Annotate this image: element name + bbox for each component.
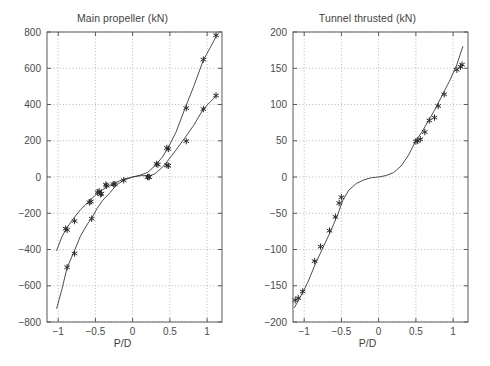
y-tick-label: −150 <box>264 280 287 291</box>
data-point-marker <box>72 218 78 224</box>
x-tick-label: 0 <box>130 326 136 337</box>
y-tick-label: 800 <box>24 27 41 38</box>
plot-area-main-propeller: −1−0.500.51−800−600−400−2000200400600800 <box>0 0 245 366</box>
chart-panel-main-propeller: Main propeller (kN) −1−0.500.51−800−600−… <box>0 0 245 366</box>
y-tick-label: −200 <box>18 208 41 219</box>
chart-panel-tunnel-thrusted: Tunnel thrusted (kN) −1−0.500.51−200−150… <box>245 0 490 366</box>
y-tick-label: 100 <box>270 99 287 110</box>
x-tick-label: 1 <box>450 326 456 337</box>
y-tick-label: −800 <box>18 317 41 328</box>
x-tick-label: 0.5 <box>163 326 177 337</box>
x-tick-label: −0.5 <box>332 326 352 337</box>
y-tick-label: −50 <box>270 208 287 219</box>
x-tick-label: −0.5 <box>86 326 106 337</box>
figure-canvas: Main propeller (kN) −1−0.500.51−800−600−… <box>0 0 490 366</box>
x-tick-label: −1 <box>298 326 310 337</box>
x-axis-label-tunnel-thrusted: P/D <box>245 337 490 349</box>
data-point-marker <box>64 264 70 270</box>
y-tick-label: 150 <box>270 63 287 74</box>
y-tick-label: 200 <box>24 135 41 146</box>
y-tick-label: −100 <box>264 244 287 255</box>
y-tick-label: −400 <box>18 244 41 255</box>
x-tick-label: 1 <box>204 326 210 337</box>
y-tick-label: 0 <box>35 172 41 183</box>
series-line-lower-branch-fit <box>57 95 217 308</box>
y-tick-label: 50 <box>276 135 288 146</box>
data-point-marker <box>213 32 219 38</box>
x-tick-label: 0 <box>376 326 382 337</box>
y-tick-label: 600 <box>24 63 41 74</box>
x-tick-label: 0.5 <box>409 326 423 337</box>
y-tick-label: −200 <box>264 317 287 328</box>
y-tick-label: 400 <box>24 99 41 110</box>
x-axis-label-main-propeller: P/D <box>0 337 245 349</box>
y-tick-label: 0 <box>281 172 287 183</box>
data-point-marker <box>432 114 438 120</box>
series-line-upper-branch-fit <box>57 35 217 250</box>
y-tick-label: −600 <box>18 280 41 291</box>
y-tick-label: 200 <box>270 27 287 38</box>
x-tick-label: −1 <box>52 326 64 337</box>
plot-area-tunnel-thrusted: −1−0.500.51−200−150−100−50050100150200 <box>245 0 490 366</box>
